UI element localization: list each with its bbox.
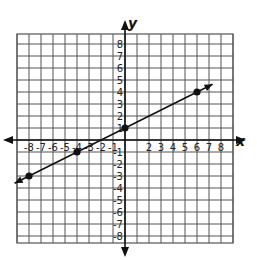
plotted-point	[25, 172, 32, 179]
y-tick-label: 7	[117, 51, 123, 62]
y-tick-label: -6	[113, 207, 123, 218]
plotted-point	[193, 88, 200, 95]
y-axis-label: y	[128, 15, 138, 31]
x-tick-label: 5	[182, 142, 188, 153]
x-tick-label: 8	[218, 142, 224, 153]
x-tick-label: 2	[146, 142, 152, 153]
y-tick-label: -5	[113, 195, 123, 206]
x-tick-label: 6	[194, 142, 200, 153]
x-axis-label: x	[235, 133, 246, 149]
x-tick-label: 3	[158, 142, 164, 153]
y-tick-label: -4	[113, 183, 123, 194]
x-tick-label: 4	[170, 142, 176, 153]
y-tick-label: 3	[117, 99, 123, 110]
y-tick-label: 2	[117, 111, 123, 122]
x-tick-label: -5	[60, 142, 70, 153]
y-tick-label: -8	[113, 231, 123, 242]
x-tick-label: -8	[24, 142, 34, 153]
x-tick-label: -2	[96, 142, 106, 153]
x-tick-label: 7	[206, 142, 212, 153]
plotted-point	[73, 148, 80, 155]
y-tick-label: -3	[113, 171, 123, 182]
x-tick-label: -6	[48, 142, 58, 153]
y-axis-down-arrow-icon	[121, 247, 129, 257]
x-axis-left-arrow-icon	[3, 136, 13, 144]
y-tick-label: 4	[117, 87, 123, 98]
y-tick-label: 8	[117, 39, 123, 50]
coordinate-plane: -8-7-6-5-4-3-2-1234567887654321-1-2-3-4-…	[0, 0, 257, 260]
y-tick-label: -2	[113, 159, 123, 170]
y-tick-label: -1	[113, 147, 123, 158]
y-tick-label: 6	[117, 63, 123, 74]
y-tick-label: -7	[113, 219, 123, 230]
x-tick-label: -7	[36, 142, 46, 153]
plotted-point	[121, 124, 128, 131]
y-tick-label: 5	[117, 75, 123, 86]
